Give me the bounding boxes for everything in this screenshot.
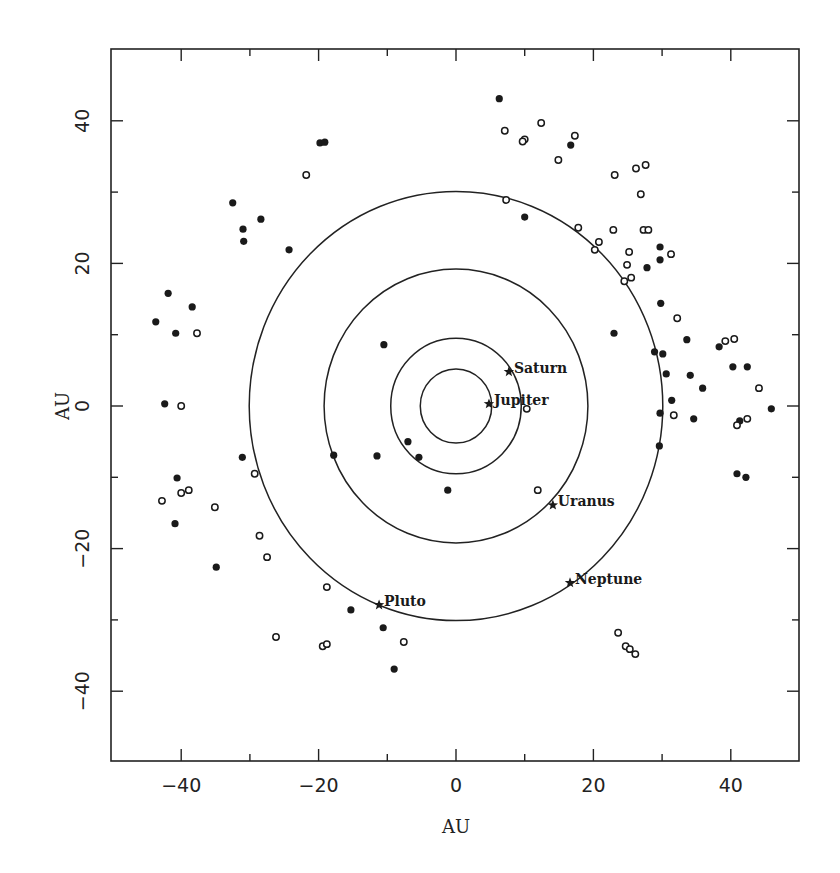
filled-point-marker <box>391 665 398 672</box>
x-tick-label: 40 <box>719 774 743 796</box>
open-point-marker <box>212 504 218 510</box>
filled-point-marker <box>380 624 387 631</box>
open-point-marker <box>668 251 674 257</box>
filled-point-marker <box>657 300 664 307</box>
open-point-marker <box>671 412 677 418</box>
open-point-marker <box>621 278 627 284</box>
y-tick-label: 40 <box>71 109 93 133</box>
filled-point-marker <box>347 606 354 613</box>
filled-point-marker <box>643 264 650 271</box>
filled-point-marker <box>683 336 690 343</box>
open-point-marker <box>273 634 279 640</box>
open-point-marker <box>615 630 621 636</box>
x-tick-label: 0 <box>450 774 462 796</box>
filled-point-marker <box>173 474 180 481</box>
open-point-marker <box>303 172 309 178</box>
filled-point-marker <box>171 520 178 527</box>
open-point-marker <box>535 487 541 493</box>
open-point-marker <box>624 262 630 268</box>
open-point-marker <box>627 646 633 652</box>
y-tick-label: 20 <box>71 251 93 275</box>
open-point-marker <box>252 471 258 477</box>
filled-point-marker <box>716 343 723 350</box>
y-tick-label: −40 <box>71 671 93 711</box>
filled-point-marker <box>172 330 179 337</box>
filled-point-marker <box>415 454 422 461</box>
open-point-marker <box>264 554 270 560</box>
open-point-marker <box>401 639 407 645</box>
filled-point-marker <box>656 256 663 263</box>
filled-point-marker <box>610 330 617 337</box>
filled-point-marker <box>257 216 264 223</box>
open-point-marker <box>611 172 617 178</box>
planet-label: Pluto <box>384 593 426 609</box>
open-point-marker <box>555 157 561 163</box>
open-point-marker <box>502 128 508 134</box>
filled-point-marker <box>744 363 751 370</box>
planet-markers: JupiterSaturnUranusNeptunePluto <box>374 360 643 610</box>
orbit-circle <box>249 191 663 620</box>
open-point-marker <box>756 385 762 391</box>
x-tick-label: 20 <box>581 774 605 796</box>
filled-point-marker <box>656 410 663 417</box>
filled-point-marker <box>733 470 740 477</box>
filled-point-marker <box>404 438 411 445</box>
filled-point-marker <box>152 318 159 325</box>
filled-point-marker <box>161 400 168 407</box>
axis-tick-labels: −40−2002040−40−2002040 <box>71 109 743 796</box>
orbit-circle <box>420 369 491 443</box>
open-point-marker <box>538 120 544 126</box>
filled-point-marker <box>240 238 247 245</box>
filled-point-marker <box>687 372 694 379</box>
filled-point-marker <box>213 564 220 571</box>
filled-point-marker <box>690 415 697 422</box>
filled-point-marker <box>330 452 337 459</box>
open-point-marker <box>744 416 750 422</box>
x-tick-label: −20 <box>299 774 339 796</box>
plot-frame <box>111 49 799 761</box>
filled-point-marker <box>229 199 236 206</box>
filled-point-marker <box>239 454 246 461</box>
open-point-marker <box>572 133 578 139</box>
open-point-marker <box>256 533 262 539</box>
planet-star-icon <box>548 500 559 510</box>
filled-point-marker <box>699 385 706 392</box>
filled-point-marker <box>239 226 246 233</box>
planet-label: Saturn <box>514 360 567 376</box>
open-point-marker <box>159 498 165 504</box>
axis-ticks <box>111 49 799 761</box>
planet-star-icon <box>374 599 385 609</box>
orbit-circles <box>249 191 663 620</box>
open-point-marker <box>592 247 598 253</box>
open-point-marker <box>734 422 740 428</box>
open-point-marker <box>596 239 602 245</box>
filled-point-marker <box>656 243 663 250</box>
planet-label: Jupiter <box>492 392 549 408</box>
filled-point-marker <box>496 95 503 102</box>
x-axis-title: AU <box>441 816 470 837</box>
open-point-marker <box>324 641 330 647</box>
filled-markers <box>152 95 775 673</box>
planet-star-icon <box>484 398 495 408</box>
open-point-marker <box>610 227 616 233</box>
open-point-marker <box>626 249 632 255</box>
filled-point-marker <box>729 363 736 370</box>
filled-point-marker <box>768 405 775 412</box>
filled-point-marker <box>321 139 328 146</box>
open-point-marker <box>638 191 644 197</box>
filled-point-marker <box>668 397 675 404</box>
open-point-marker <box>642 162 648 168</box>
open-point-marker <box>575 225 581 231</box>
open-point-marker <box>722 338 728 344</box>
y-axis-title: AU <box>52 392 73 421</box>
filled-point-marker <box>656 442 663 449</box>
y-tick-label: 0 <box>71 400 93 412</box>
open-point-marker <box>628 274 634 280</box>
open-point-marker <box>519 138 525 144</box>
open-point-marker <box>674 315 680 321</box>
filled-point-marker <box>567 141 574 148</box>
filled-point-marker <box>189 303 196 310</box>
scatter-chart: JupiterSaturnUranusNeptunePluto −40−2002… <box>0 0 840 873</box>
open-point-marker <box>324 584 330 590</box>
planet-label: Neptune <box>575 571 642 587</box>
